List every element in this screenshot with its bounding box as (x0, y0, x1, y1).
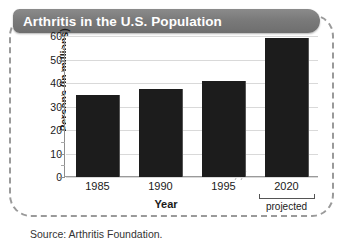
x-tick-label-1990: 1990 (131, 179, 191, 193)
plot-canvas (66, 36, 318, 177)
x-tick-label-1995: 1995 (194, 179, 254, 193)
y-tick-mark-60 (59, 36, 65, 37)
y-tick-mark-10 (59, 154, 65, 155)
gridline-60 (66, 36, 318, 37)
x-axis-tick-labels: 1985199019952020 (66, 179, 318, 195)
y-minor-tick-55 (61, 48, 65, 49)
bar-2020 (265, 38, 309, 177)
y-tick-mark-40 (59, 83, 65, 84)
chart-area: Persons (in millions) 0102030405060 1985… (18, 36, 326, 214)
bar-1990 (139, 89, 183, 177)
y-minor-tick-45 (61, 71, 65, 72)
y-tick-mark-50 (59, 60, 65, 61)
projected-bracket (259, 194, 315, 199)
y-minor-tick-5 (61, 165, 65, 166)
bar-1995 (202, 81, 246, 177)
y-tick-mark-0 (59, 177, 65, 178)
bar-1985 (76, 95, 120, 177)
source-caption: Source: Arthritis Foundation. (30, 228, 163, 240)
y-tick-mark-30 (59, 107, 65, 108)
x-tick-label-2020: 2020 (257, 179, 317, 193)
chart-title: Arthritis in the U.S. Population (13, 14, 222, 29)
y-tick-mark-20 (59, 130, 65, 131)
gridline-0 (66, 177, 318, 178)
x-axis-title: Year (66, 198, 266, 210)
y-minor-tick-35 (61, 95, 65, 96)
y-minor-tick-25 (61, 118, 65, 119)
y-minor-tick-15 (61, 142, 65, 143)
x-tick-label-1985: 1985 (68, 179, 128, 193)
